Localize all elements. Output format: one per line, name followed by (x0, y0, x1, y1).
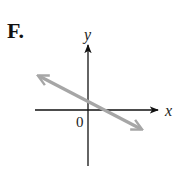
y-axis-label: y (82, 26, 92, 44)
graph-line (39, 76, 141, 129)
x-axis-label: x (164, 102, 172, 119)
coordinate-plane: y x 0 (0, 0, 189, 172)
origin-label: 0 (76, 114, 84, 130)
